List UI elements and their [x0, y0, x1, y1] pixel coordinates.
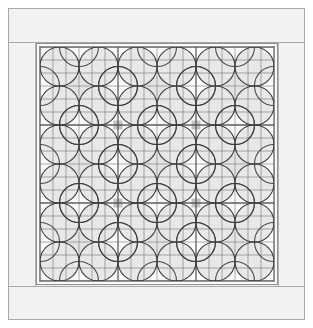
pattern-field: [21, 28, 294, 301]
rosette-panel-figure: Square architectural panel drawing: an o…: [0, 0, 313, 328]
page-root: Square architectural panel drawing: an o…: [0, 0, 313, 328]
